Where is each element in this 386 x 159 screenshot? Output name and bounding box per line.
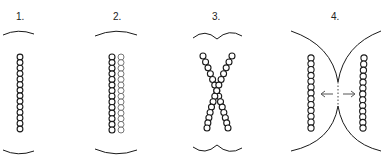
- panel-2-top-membrane: [95, 31, 137, 36]
- panel-4-left-membrane: [291, 31, 338, 82]
- panel-4-bead-chain-right: [360, 55, 368, 131]
- panel-4-right-membrane: [338, 31, 381, 82]
- panel-2-bottom-membrane: [95, 149, 137, 154]
- panel-4-bead-chain-left: [308, 55, 314, 131]
- panel-2-bead-chain-left: [109, 54, 115, 133]
- membrane-fusion-figure: 1. 2. 3. 4.: [0, 0, 386, 159]
- panel-4-left-arrow-icon: [321, 91, 333, 97]
- panel-1-bead-chain: [17, 54, 23, 132]
- figure-drawing: [0, 0, 386, 159]
- panel-4-right-arrow-icon: [343, 91, 355, 97]
- panel-1-bottom-membrane: [3, 150, 34, 154]
- panel-3-top-membrane: [193, 33, 242, 39]
- panel-3-bottom-membrane: [193, 145, 242, 151]
- panel-1-top-membrane: [3, 31, 34, 35]
- panel-2-bead-chain-right: [118, 54, 124, 133]
